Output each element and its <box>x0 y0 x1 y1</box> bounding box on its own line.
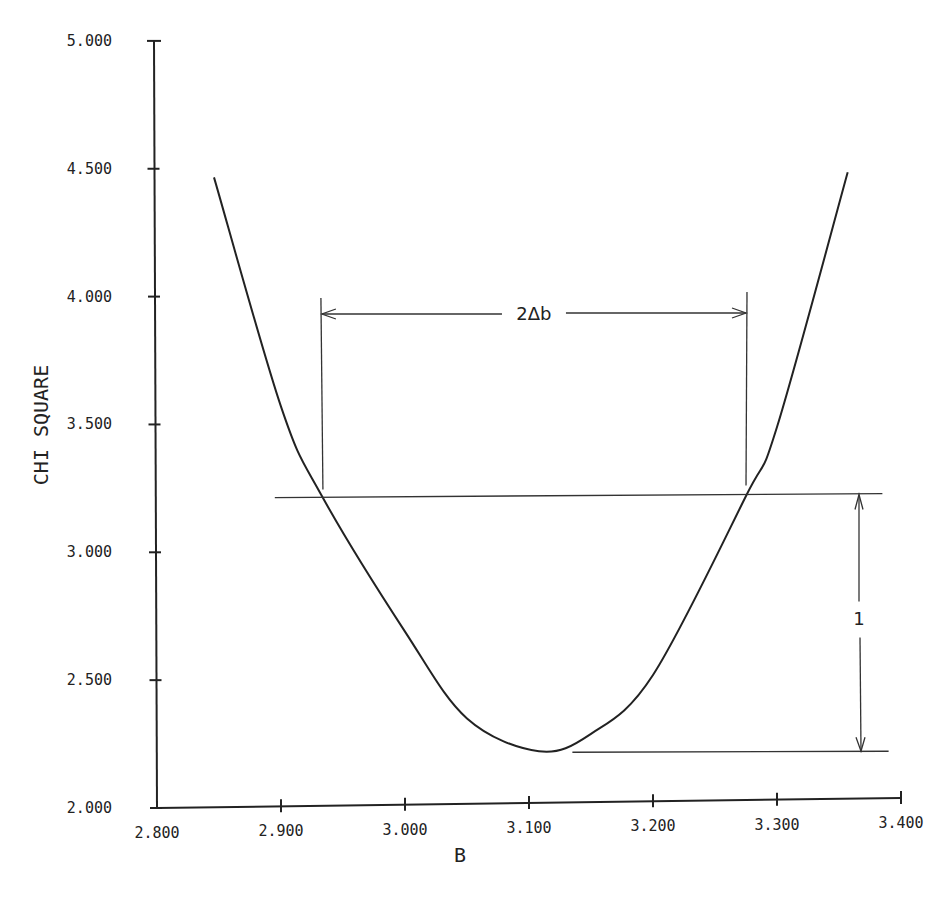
axes <box>154 41 901 808</box>
x-tick-label: 2.800 <box>134 824 179 842</box>
y-tick-label: 5.000 <box>67 32 112 50</box>
y-tick-label: 3.500 <box>67 415 112 433</box>
height-label-one: 1 <box>853 608 864 629</box>
x-axis-title: B <box>454 843 466 867</box>
chi-square-chart: 2.0002.5003.0003.5004.0004.5005.000 2.80… <box>0 0 942 899</box>
x-tick-label: 3.200 <box>630 817 675 835</box>
y-axis-title: CHI SQUARE <box>29 365 53 485</box>
left-width-marker <box>321 298 323 490</box>
y-tick-label: 4.500 <box>67 160 112 178</box>
x-tick-label: 2.900 <box>258 822 303 840</box>
minimum-line <box>572 751 888 752</box>
x-tick-label: 3.300 <box>754 816 799 834</box>
x-tick-label: 3.100 <box>506 819 551 837</box>
height-arrow-bottom-segment <box>860 637 861 751</box>
right-width-marker <box>746 292 747 486</box>
x-tick-label: 3.400 <box>878 814 923 832</box>
x-tick-label: 3.000 <box>382 821 427 839</box>
chi-square-curve <box>214 172 848 751</box>
threshold-line <box>275 494 883 498</box>
y-tick-label: 2.500 <box>67 671 112 689</box>
y-tick-label: 2.000 <box>67 799 112 817</box>
y-ticks: 2.0002.5003.0003.5004.0004.5005.000 <box>67 32 162 817</box>
width-label-2-delta-b: 2Δb <box>516 303 551 324</box>
y-tick-label: 4.000 <box>67 288 112 306</box>
y-tick-label: 3.000 <box>67 543 112 561</box>
